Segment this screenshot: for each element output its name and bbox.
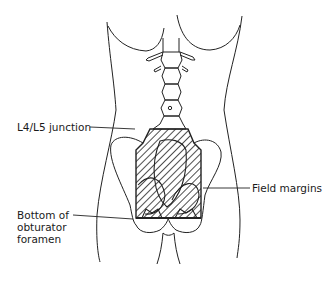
treatment-field xyxy=(136,129,201,218)
pelvic-field-diagram xyxy=(0,0,335,289)
label-l4l5-junction: L4/L5 junction xyxy=(17,121,91,133)
label-obturator-line2: obturator xyxy=(17,221,87,233)
label-obturator-line3: foramen xyxy=(17,233,87,245)
label-obturator-line1: Bottom of xyxy=(17,209,87,221)
label-obturator-foramen: Bottom of obturator foramen xyxy=(17,209,87,245)
label-field-margins: Field margins xyxy=(252,182,322,194)
spine xyxy=(146,38,195,129)
